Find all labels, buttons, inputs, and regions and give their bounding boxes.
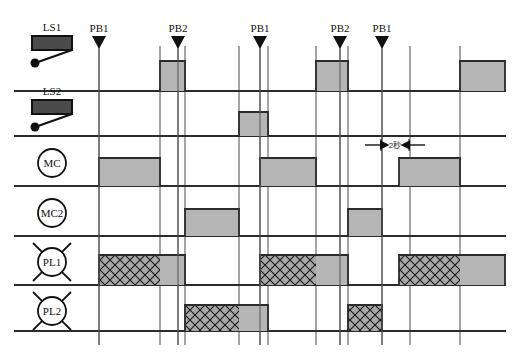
pilot-lamp-symbol-pl2: PL2 bbox=[33, 292, 71, 330]
ls-contact-dot-icon bbox=[31, 123, 40, 132]
pulse-LS1-2 bbox=[460, 61, 505, 91]
timing-diagram-canvas: PB1PB2PB1PB2PB1 LS1LS2MCMC2PL1PL2 2秒 bbox=[0, 0, 518, 352]
pulse-PL1-4 bbox=[399, 255, 460, 285]
pulse-PL2-2 bbox=[348, 305, 382, 331]
pb-marker-label-3: PB1 bbox=[251, 22, 270, 34]
pb-marker-label-5: PB1 bbox=[373, 22, 392, 34]
pilot-lamp-symbol-pl1: PL1 bbox=[33, 243, 71, 281]
pulse-PL1-0 bbox=[99, 255, 160, 285]
pb-marker-label-2: PB2 bbox=[169, 22, 188, 34]
timing-diagram-svg: PB1PB2PB1PB2PB1 LS1LS2MCMC2PL1PL2 2秒 bbox=[0, 0, 518, 352]
pulse-MC2-1 bbox=[348, 209, 382, 236]
motor-contactor-symbol-mc1: MC bbox=[38, 149, 66, 177]
dimension-2sec: 2秒 bbox=[365, 139, 425, 151]
pb-marker-arrow-5 bbox=[375, 36, 389, 49]
pb-marker-arrow-2 bbox=[171, 36, 185, 49]
motor-contactor-symbol-mc2: MC2 bbox=[38, 199, 66, 227]
ls-label: LS2 bbox=[43, 85, 61, 97]
pulse-PL2-1 bbox=[239, 305, 268, 331]
pulse-LS1-1 bbox=[316, 61, 348, 91]
pb-marker-arrow-4 bbox=[333, 36, 347, 49]
coil-label: MC bbox=[43, 157, 60, 169]
dimension-annotation-layer: 2秒 bbox=[365, 139, 425, 151]
pulse-LS1-0 bbox=[160, 61, 185, 91]
pulse-MC1-0 bbox=[99, 158, 160, 186]
ls-bar-icon bbox=[32, 36, 72, 50]
pb-marker-arrow-3 bbox=[253, 36, 267, 49]
pulse-MC1-2 bbox=[399, 158, 460, 186]
coil-label: MC2 bbox=[41, 207, 64, 219]
limit-switch-symbol-ls2: LS2 bbox=[31, 85, 73, 132]
dimension-label-text: 2秒 bbox=[389, 140, 401, 150]
ls-arm-icon bbox=[38, 114, 72, 126]
lamp-label: PL2 bbox=[43, 305, 61, 317]
pulse-PL1-5 bbox=[460, 255, 505, 285]
ls-label: LS1 bbox=[43, 21, 61, 33]
pb-marker-label-1: PB1 bbox=[90, 22, 109, 34]
pulse-PL1-1 bbox=[160, 255, 185, 285]
pulse-MC1-1 bbox=[260, 158, 316, 186]
limit-switch-symbol-ls1: LS1 bbox=[31, 21, 73, 68]
ls-contact-dot-icon bbox=[31, 59, 40, 68]
pb-marker-label-4: PB2 bbox=[331, 22, 350, 34]
pb-marker-arrow-1 bbox=[92, 36, 106, 49]
pulse-PL1-2 bbox=[260, 255, 316, 285]
ls-bar-icon bbox=[32, 100, 72, 114]
ls-arm-icon bbox=[38, 50, 72, 62]
pulse-MC2-0 bbox=[185, 209, 239, 236]
lamp-label: PL1 bbox=[43, 256, 61, 268]
pulse-PL2-0 bbox=[185, 305, 239, 331]
pulse-LS2-0 bbox=[239, 112, 268, 136]
pulse-PL1-3 bbox=[316, 255, 348, 285]
row-symbols-layer: LS1LS2MCMC2PL1PL2 bbox=[31, 21, 73, 330]
